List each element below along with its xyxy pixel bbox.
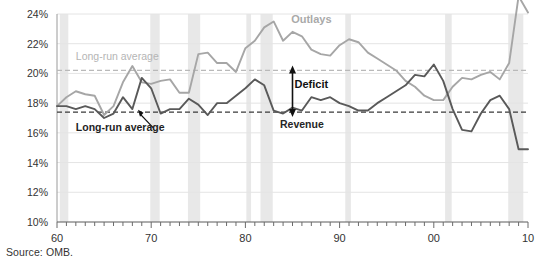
chart-container: 10%12%14%16%18%20%22%24%607080900010Outl… [0, 0, 536, 268]
recession-band [260, 14, 272, 222]
annotation-long-run-average-outlays: Long-run average [76, 50, 159, 62]
recession-band [445, 14, 452, 222]
y-axis-tick-label: 20% [27, 67, 48, 79]
x-axis-tick-label: 90 [333, 232, 345, 244]
x-axis-tick-label: 70 [145, 232, 157, 244]
annotation-long-run-average-revenue: Long-run average [76, 121, 165, 133]
x-axis-tick-label: 10 [522, 232, 534, 244]
x-axis-tick-label: 60 [51, 232, 63, 244]
y-axis-tick-label: 10% [27, 216, 48, 228]
x-axis-tick-label: 80 [239, 232, 251, 244]
y-axis-tick-label: 22% [27, 38, 48, 50]
recession-band [345, 14, 351, 222]
recession-band [188, 14, 200, 222]
x-axis-tick-label: 00 [428, 232, 440, 244]
revenue-outlays-line-chart: 10%12%14%16%18%20%22%24%607080900010Outl… [0, 0, 536, 268]
annotation-outlays: Outlays [291, 13, 331, 25]
y-axis-tick-label: 18% [27, 97, 48, 109]
recession-band [150, 14, 159, 222]
y-axis-tick-label: 14% [27, 157, 48, 169]
annotation-revenue: Revenue [280, 118, 324, 130]
annotation-deficit: Deficit [295, 78, 329, 90]
recession-band [60, 14, 68, 222]
source-note: Source: OMB. [6, 246, 73, 258]
y-axis-tick-label: 16% [27, 127, 48, 139]
y-axis-tick-label: 24% [27, 8, 48, 20]
y-axis-tick-label: 12% [27, 186, 48, 198]
